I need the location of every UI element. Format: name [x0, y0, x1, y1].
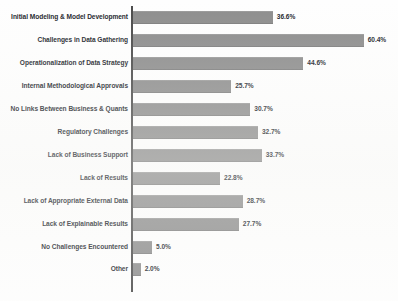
category-axis-line — [131, 6, 133, 292]
bar — [133, 149, 262, 162]
bar-category-label: Initial Modeling & Model Development — [2, 11, 128, 22]
bar-category-label: Lack of Explainable Results — [2, 218, 128, 229]
bar-value-label: 5.0% — [156, 241, 171, 252]
bar-value-label: 32.7% — [262, 126, 280, 137]
bar-row: Regulatory Challenges32.7% — [0, 126, 398, 149]
bar-category-label: No Links Between Business & Quants — [2, 103, 128, 114]
bar-category-label: No Challenges Encountered — [2, 241, 128, 252]
bar-value-label: 27.7% — [243, 218, 261, 229]
bar — [133, 34, 364, 47]
bar — [133, 172, 220, 185]
bar-value-label: 36.6% — [277, 11, 295, 22]
bar — [133, 126, 258, 139]
bar-row: Lack of Business Support33.7% — [0, 149, 398, 172]
bar-row: Initial Modeling & Model Development36.6… — [0, 11, 398, 34]
bar-value-label: 44.6% — [307, 57, 325, 68]
bar-chart: Initial Modeling & Model Development36.6… — [0, 0, 398, 301]
bar-value-label: 2.0% — [145, 263, 160, 274]
bar — [133, 241, 152, 254]
bar — [133, 263, 141, 276]
bar-category-label: Regulatory Challenges — [2, 126, 128, 137]
bar — [133, 11, 273, 24]
bar — [133, 195, 243, 208]
bar-category-label: Lack of Results — [2, 172, 128, 183]
bar-value-label: 30.7% — [254, 103, 272, 114]
bar-value-label: 22.8% — [224, 172, 242, 183]
bar-row: No Links Between Business & Quants30.7% — [0, 103, 398, 126]
bar-row: Other2.0% — [0, 263, 398, 286]
bar-category-label: Other — [2, 263, 128, 274]
bar-value-label: 33.7% — [266, 149, 284, 160]
bar-row: No Challenges Encountered5.0% — [0, 241, 398, 264]
bar — [133, 80, 231, 93]
bar-category-label: Operationalization of Data Strategy — [2, 57, 128, 68]
bar — [133, 218, 239, 231]
bar-value-label: 28.7% — [247, 195, 265, 206]
bar-category-label: Challenges in Data Gathering — [2, 34, 128, 45]
bar-value-label: 25.7% — [235, 80, 253, 91]
bar-row: Operationalization of Data Strategy44.6% — [0, 57, 398, 80]
plot-area: Initial Modeling & Model Development36.6… — [0, 0, 398, 301]
bar-row: Challenges in Data Gathering60.4% — [0, 34, 398, 57]
bar-value-label: 60.4% — [368, 34, 386, 45]
bar-row: Internal Methodological Approvals25.7% — [0, 80, 398, 103]
bar-row: Lack of Explainable Results27.7% — [0, 218, 398, 241]
bar-category-label: Internal Methodological Approvals — [2, 80, 128, 91]
bar-category-label: Lack of Business Support — [2, 149, 128, 160]
bar-category-label: Lack of Appropriate External Data — [2, 195, 128, 206]
bar-row: Lack of Results22.8% — [0, 172, 398, 195]
bar — [133, 103, 250, 116]
bar-row: Lack of Appropriate External Data28.7% — [0, 195, 398, 218]
bar — [133, 57, 303, 70]
